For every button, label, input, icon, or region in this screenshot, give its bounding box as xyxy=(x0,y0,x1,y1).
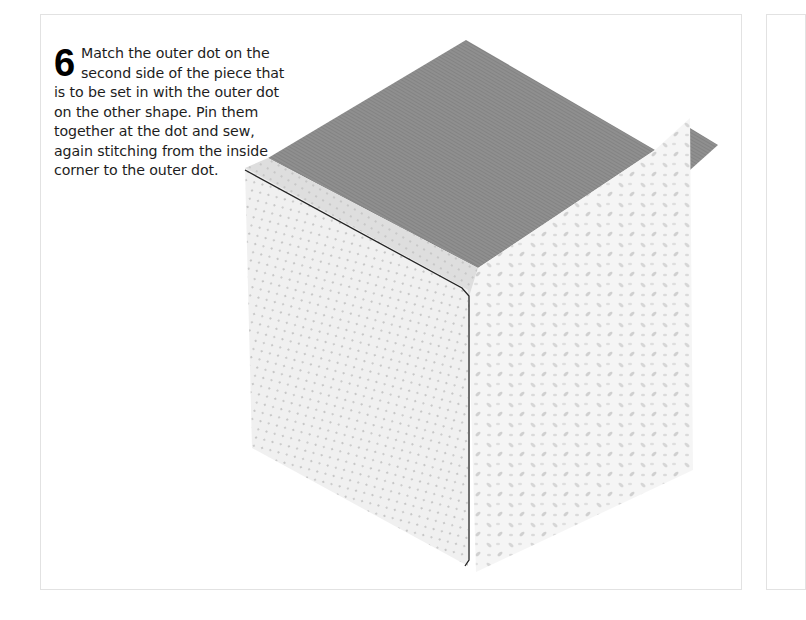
fabric-top-flap xyxy=(690,128,718,170)
